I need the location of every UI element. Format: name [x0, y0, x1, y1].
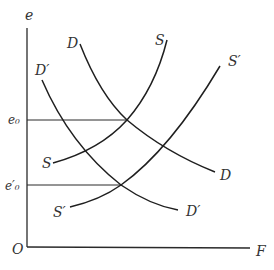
D-bottom-label: D — [219, 167, 231, 183]
D-prime-bottom-label: D′ — [185, 203, 201, 219]
e0-label: e₀ — [8, 113, 20, 127]
origin-label: O — [12, 241, 24, 257]
supply-demand-diagram: e F O e₀ e′₀ D D D′ D′ S S S′ S′ — [0, 0, 274, 270]
supply-curve-S-prime — [70, 66, 220, 207]
S-prime-bottom-label: S′ — [53, 204, 67, 220]
e-prime-0-label: e′₀ — [5, 179, 20, 193]
S-prime-top-label: S′ — [228, 53, 242, 69]
D-prime-top-label: D′ — [34, 62, 50, 78]
S-top-label: S — [155, 32, 165, 48]
demand-curve-D — [80, 44, 215, 172]
x-axis-label: F — [255, 243, 267, 259]
S-bottom-label: S — [42, 155, 52, 171]
x-axis — [27, 247, 250, 248]
y-axis-label: e — [25, 7, 33, 23]
D-top-label: D — [66, 35, 78, 51]
